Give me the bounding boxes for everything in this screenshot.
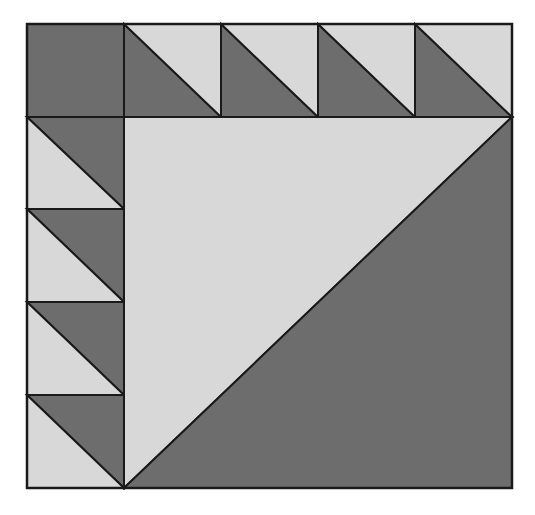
corner-square <box>27 24 124 117</box>
quilt-block-diagram <box>0 0 535 515</box>
quilt-pieces <box>27 24 512 488</box>
